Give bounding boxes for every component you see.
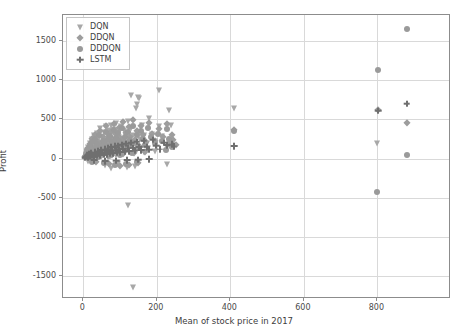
data-point-lstm	[131, 147, 138, 154]
data-point-ddqn	[101, 137, 108, 144]
data-point-dddqn	[114, 147, 120, 153]
data-point-dddqn	[127, 137, 133, 143]
data-point-lstm	[101, 146, 108, 153]
y-axis-tick-label: 1500	[0, 35, 56, 44]
diamond-icon	[76, 34, 83, 41]
data-point-ddqn	[87, 154, 94, 161]
data-point-ddqn	[230, 126, 237, 133]
gridline-horizontal	[63, 159, 449, 160]
data-point-lstm	[161, 140, 168, 147]
data-point-dddqn	[93, 145, 99, 151]
data-point-lstm	[86, 151, 93, 158]
legend-item-dddqn[interactable]: DDDQN	[72, 43, 121, 54]
data-point-ddqn	[133, 127, 140, 134]
data-point-dddqn	[128, 143, 134, 149]
data-point-dddqn	[140, 136, 146, 142]
data-point-ddqn	[90, 145, 97, 152]
data-point-dqn	[164, 144, 170, 150]
data-point-dddqn	[111, 127, 117, 133]
data-point-dqn	[119, 136, 125, 142]
data-point-dddqn	[94, 141, 100, 147]
data-point-ddqn	[125, 124, 132, 131]
data-point-dqn	[133, 106, 139, 112]
data-point-dddqn	[123, 161, 129, 167]
data-point-ddqn	[148, 130, 155, 137]
y-axis-tick-label: -1500	[0, 271, 56, 280]
data-point-lstm	[122, 148, 129, 155]
data-point-ddqn	[163, 120, 170, 127]
data-point-dddqn	[404, 152, 410, 158]
data-point-lstm	[112, 147, 119, 154]
data-point-dddqn	[117, 152, 123, 158]
data-point-lstm	[128, 139, 135, 146]
data-point-dddqn	[125, 129, 131, 135]
x-axis-tick-label: 600	[295, 303, 310, 312]
data-point-dqn	[108, 122, 114, 128]
y-axis-tick	[59, 118, 62, 119]
data-point-lstm	[141, 138, 148, 145]
data-point-dddqn	[101, 140, 107, 146]
data-point-dqn	[114, 138, 120, 144]
data-point-dqn	[108, 166, 114, 172]
data-point-dddqn	[134, 159, 140, 165]
data-point-dqn	[96, 136, 102, 142]
data-point-lstm	[136, 144, 143, 151]
data-point-dqn	[144, 140, 150, 146]
data-point-dddqn	[166, 141, 172, 147]
data-point-dqn	[97, 125, 103, 131]
data-point-dddqn	[121, 141, 127, 147]
data-point-ddqn	[142, 138, 149, 145]
data-point-ddqn	[94, 138, 101, 145]
data-point-dqn	[135, 94, 141, 100]
data-point-dddqn	[118, 144, 124, 150]
data-point-ddqn	[93, 142, 100, 149]
data-point-dqn	[130, 133, 136, 139]
data-point-lstm	[100, 151, 107, 158]
data-point-dddqn	[106, 148, 112, 154]
data-point-dqn	[92, 152, 98, 158]
legend-item-dqn[interactable]: DQN	[72, 21, 121, 32]
data-point-lstm	[164, 142, 171, 149]
data-point-dqn	[113, 120, 119, 126]
data-point-dqn	[139, 122, 145, 128]
data-point-dddqn	[104, 143, 110, 149]
data-point-ddqn	[128, 140, 135, 147]
y-axis-tick	[59, 79, 62, 80]
data-point-ddqn	[130, 149, 137, 156]
data-point-lstm	[149, 137, 156, 144]
gridline-horizontal	[63, 119, 449, 120]
data-point-dqn	[102, 146, 108, 152]
data-point-dddqn	[102, 146, 108, 152]
data-point-lstm	[89, 152, 96, 159]
x-axis-tick	[376, 298, 377, 301]
data-point-ddqn	[140, 132, 147, 139]
y-axis-tick	[59, 40, 62, 41]
gridline-horizontal	[63, 80, 449, 81]
data-point-lstm	[91, 149, 98, 156]
data-point-dqn	[132, 163, 138, 169]
data-point-dqn	[135, 130, 141, 136]
data-point-lstm	[104, 151, 111, 158]
y-axis-tick-label: 0	[0, 153, 56, 162]
data-point-ddqn	[115, 125, 122, 132]
chart-legend[interactable]: DQNDDQNDDDQNLSTM	[66, 17, 130, 70]
legend-label: DDQN	[88, 33, 115, 42]
data-point-dddqn	[163, 147, 169, 153]
legend-marker-circle-icon	[72, 43, 88, 54]
data-point-dqn	[168, 122, 174, 128]
legend-item-ddqn[interactable]: DDQN	[72, 32, 121, 43]
legend-label: DQN	[88, 22, 108, 31]
data-point-dddqn	[142, 142, 148, 148]
legend-item-lstm[interactable]: LSTM	[72, 54, 121, 65]
gridline-vertical	[230, 15, 231, 297]
data-point-dqn	[145, 146, 151, 152]
data-point-ddqn	[170, 136, 177, 143]
data-point-dddqn	[129, 150, 135, 156]
legend-label: LSTM	[88, 55, 111, 64]
data-point-ddqn	[116, 162, 123, 169]
data-point-dddqn	[103, 129, 109, 135]
data-point-lstm	[231, 143, 238, 150]
y-axis-tick-label: -500	[0, 192, 56, 201]
data-point-dddqn	[164, 126, 170, 132]
data-point-dqn	[124, 165, 130, 171]
